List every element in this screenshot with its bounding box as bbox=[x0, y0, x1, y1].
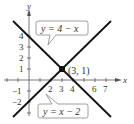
y-tick-neg1: −1 bbox=[12, 86, 22, 96]
intersection-label: (3, 1) bbox=[68, 65, 90, 77]
callout-bottom: y = x − 2 bbox=[38, 94, 88, 118]
x-tick-2: 2 bbox=[48, 84, 53, 94]
callout-top-text: y = 4 − x bbox=[40, 23, 79, 34]
y-tick-1: 1 bbox=[19, 64, 24, 74]
x-tick-6: 6 bbox=[92, 84, 97, 94]
callout-top: y = 4 − x bbox=[36, 21, 88, 45]
callout-bottom-text: y = x − 2 bbox=[42, 106, 80, 117]
x-tick-3: 3 bbox=[59, 84, 64, 94]
y-tick-2: 2 bbox=[19, 53, 24, 63]
intersection-marker-icon bbox=[59, 66, 65, 72]
y-axis-label: y bbox=[26, 1, 31, 11]
y-tick-neg2: −2 bbox=[12, 97, 22, 107]
x-tick-4: 4 bbox=[70, 84, 75, 94]
graph: 2 3 4 6 7 4 3 2 1 −1 −2 x y (3, 1) y = 4… bbox=[0, 0, 134, 124]
y-tick-3: 3 bbox=[19, 42, 24, 52]
x-tick-7: 7 bbox=[103, 84, 108, 94]
x-axis-arrow-icon bbox=[115, 78, 122, 82]
x-axis-label: x bbox=[122, 75, 127, 85]
y-tick-4: 4 bbox=[19, 31, 24, 41]
